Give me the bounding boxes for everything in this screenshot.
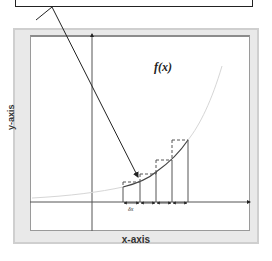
callout-leader-line [52, 7, 138, 177]
y-axis [90, 33, 94, 231]
function-curve-faded [32, 187, 123, 198]
function-curve-faded-upper [188, 66, 222, 140]
diagram-graphics [0, 0, 272, 261]
